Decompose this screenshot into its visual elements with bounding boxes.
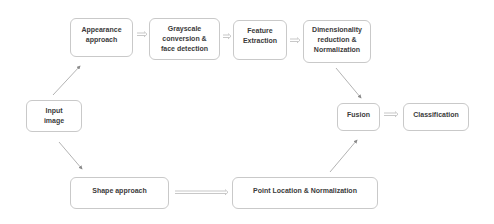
- node-label-line: Fusion: [347, 110, 370, 120]
- node-label-line: Normalization: [314, 45, 360, 55]
- node-label-line: conversion &: [162, 34, 206, 44]
- node-classification: Classification: [403, 103, 469, 131]
- node-fusion: Fusion: [337, 103, 380, 131]
- node-label-line: Point Location & Normalization: [253, 186, 357, 196]
- double-arrow-fusion-to-classification: [384, 112, 398, 118]
- node-label-line: Appearance: [81, 25, 121, 35]
- node-label-line: Shape approach: [92, 186, 146, 196]
- arrow-point-to-fusion: [330, 140, 357, 172]
- arrow-dimensionality-to-fusion: [336, 68, 361, 98]
- node-label-line: reduction &: [318, 35, 357, 45]
- node-feature-extraction: Feature Extraction: [233, 20, 287, 60]
- node-input-image: Input image: [26, 100, 82, 132]
- node-shape-approach: Shape approach: [70, 177, 169, 209]
- node-label-line: image: [44, 116, 64, 126]
- node-label-line: Classification: [413, 110, 459, 120]
- node-label-line: Input: [45, 106, 62, 116]
- node-label-line: approach: [86, 35, 118, 45]
- node-appearance-approach: Appearance approach: [70, 18, 133, 57]
- double-arrow-appearance-to-grayscale: [137, 32, 147, 38]
- node-dimensionality-reduction: Dimensionality reduction & Normalization: [303, 20, 371, 63]
- double-arrow-grayscale-to-feature: [223, 34, 231, 40]
- node-label-line: Extraction: [243, 36, 277, 46]
- node-label-line: Dimensionality: [312, 25, 362, 35]
- arrow-input-to-appearance: [53, 66, 80, 95]
- double-arrow-shape-to-point: [175, 190, 228, 196]
- arrow-input-to-shape: [59, 142, 82, 169]
- double-arrow-feature-to-dimensionality: [290, 38, 300, 44]
- node-grayscale-conversion: Grayscale conversion & face detection: [149, 18, 220, 60]
- node-label-line: Feature: [247, 26, 272, 36]
- node-label-line: face detection: [161, 44, 208, 54]
- node-point-location-normalization: Point Location & Normalization: [232, 177, 378, 209]
- node-label-line: Grayscale: [168, 24, 201, 34]
